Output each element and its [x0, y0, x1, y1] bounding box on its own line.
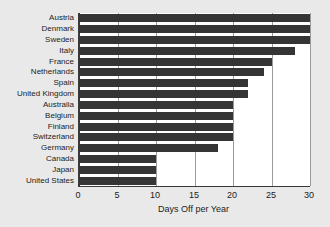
bar-japan	[79, 166, 156, 174]
x-tick-0: 0	[75, 189, 80, 201]
category-label-japan: Japan	[0, 165, 74, 174]
bar-fill	[79, 36, 310, 44]
category-label-australia: Australia	[0, 100, 74, 109]
bar-fill	[79, 25, 310, 33]
bar-switzerland	[79, 133, 233, 141]
bar-fill	[79, 14, 310, 22]
bar-fill	[79, 155, 156, 163]
bar-chart: AustriaDenmarkSwedenItalyFranceNetherlan…	[0, 0, 330, 227]
category-label-united-states: United States	[0, 176, 74, 185]
gridline-30	[310, 13, 311, 186]
category-label-france: France	[0, 57, 74, 66]
bar-austria	[79, 14, 310, 22]
category-label-italy: Italy	[0, 46, 74, 55]
bar-australia	[79, 101, 233, 109]
bar-fill	[79, 112, 233, 120]
bar-fill	[79, 58, 272, 66]
bar-germany	[79, 144, 218, 152]
bar-fill	[79, 47, 295, 55]
bar-fill	[79, 79, 248, 87]
bar-fill	[79, 68, 264, 76]
x-tick-15: 15	[189, 189, 199, 201]
bar-fill	[79, 90, 248, 98]
bar-fill	[79, 101, 233, 109]
x-axis-title: Days Off per Year	[78, 204, 309, 214]
bar-fill	[79, 123, 233, 131]
category-label-belgium: Belgium	[0, 111, 74, 120]
bar-fill	[79, 144, 218, 152]
x-tick-10: 10	[150, 189, 160, 201]
bar-spain	[79, 79, 248, 87]
category-label-united-kingdom: United Kingdom	[0, 89, 74, 98]
x-tick-5: 5	[114, 189, 119, 201]
category-label-canada: Canada	[0, 154, 74, 163]
category-label-spain: Spain	[0, 78, 74, 87]
category-axis-labels: AustriaDenmarkSwedenItalyFranceNetherlan…	[0, 13, 74, 186]
x-tick-25: 25	[266, 189, 276, 201]
bar-fill	[79, 177, 156, 185]
bar-fill	[79, 166, 156, 174]
bar-france	[79, 58, 272, 66]
bar-united-kingdom	[79, 90, 248, 98]
category-label-switzerland: Switzerland	[0, 132, 74, 141]
plot-area	[78, 13, 310, 187]
bar-series	[79, 13, 310, 186]
bar-canada	[79, 155, 156, 163]
bar-finland	[79, 123, 233, 131]
bar-sweden	[79, 36, 310, 44]
bar-united-states	[79, 177, 156, 185]
bar-fill	[79, 133, 233, 141]
category-label-denmark: Denmark	[0, 24, 74, 33]
category-label-germany: Germany	[0, 143, 74, 152]
category-label-finland: Finland	[0, 122, 74, 131]
category-label-austria: Austria	[0, 13, 74, 22]
bar-italy	[79, 47, 295, 55]
bar-belgium	[79, 112, 233, 120]
bar-denmark	[79, 25, 310, 33]
category-label-netherlands: Netherlands	[0, 67, 74, 76]
bar-netherlands	[79, 68, 264, 76]
x-tick-20: 20	[227, 189, 237, 201]
x-tick-30: 30	[304, 189, 314, 201]
category-label-sweden: Sweden	[0, 35, 74, 44]
x-axis-tick-labels: 051015202530	[78, 189, 309, 201]
